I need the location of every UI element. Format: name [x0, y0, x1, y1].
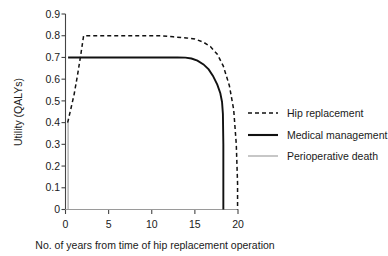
legend-label: Hip replacement	[287, 107, 364, 119]
series-line-medical-management	[68, 57, 223, 209]
y-tick-label: 0.9	[45, 8, 60, 20]
x-tick-label: 15	[189, 218, 201, 230]
y-tick-label: 0.7	[45, 51, 60, 63]
y-tick-label: 0.6	[45, 73, 60, 85]
y-tick-label: 0.8	[45, 29, 60, 41]
x-tick-label: 0	[63, 218, 69, 230]
y-tick-label: 0.4	[45, 116, 60, 128]
x-tick-label: 20	[232, 218, 244, 230]
chart-plot-area: 00.10.20.30.40.50.60.70.80.9 05101520 Ut…	[0, 0, 388, 256]
y-tick-label: 0	[54, 203, 60, 215]
x-tick-label-group: 05101520	[63, 218, 244, 230]
series-line-hip-replacement	[68, 36, 238, 210]
x-axis-title: No. of years from time of hip replacemen…	[35, 239, 274, 251]
y-tick-label: 0.5	[45, 95, 60, 107]
chart-legend: Hip replacementMedical managementPeriope…	[248, 107, 387, 162]
legend-label: Medical management	[287, 129, 387, 141]
y-tick-label: 0.3	[45, 138, 60, 150]
chart-figure: 00.10.20.30.40.50.60.70.80.9 05101520 Ut…	[0, 0, 388, 256]
y-tick-label-group: 00.10.20.30.40.50.60.70.80.9	[45, 8, 60, 216]
y-tick-label: 0.2	[45, 160, 60, 172]
tick-mark-group	[62, 14, 239, 214]
y-tick-label: 0.1	[45, 181, 60, 193]
legend-label: Perioperative death	[287, 150, 378, 162]
x-tick-label: 10	[146, 218, 158, 230]
x-tick-label: 5	[106, 218, 112, 230]
y-axis-title: Utility (QALYs)	[12, 78, 24, 146]
